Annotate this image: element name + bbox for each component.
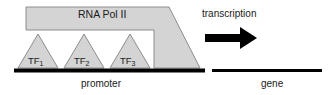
- gene-label: gene: [261, 79, 283, 89]
- transcription-label: transcription: [202, 9, 256, 19]
- transcription-diagram: RNA Pol II transcription promoter gene T…: [0, 0, 332, 95]
- rna-polymerase-ii-label: RNA Pol II: [78, 9, 126, 20]
- gene-dna-line: [212, 69, 322, 72]
- tf2-text: TF: [74, 55, 86, 66]
- tf1-subscript: 1: [40, 60, 44, 67]
- tf3-subscript: 3: [132, 60, 136, 67]
- transcription-arrow-shaft: [205, 34, 241, 42]
- tf3-text: TF: [120, 55, 132, 66]
- transcription-arrow-head: [240, 27, 257, 49]
- transcription-factor-3-label: TF3: [120, 55, 136, 66]
- promoter-dna-line: [14, 69, 205, 73]
- transcription-factor-2-label: TF2: [74, 55, 90, 66]
- tf2-subscript: 2: [86, 60, 90, 67]
- tf1-text: TF: [28, 55, 40, 66]
- transcription-arrow: [205, 27, 257, 49]
- transcription-factor-1-label: TF1: [28, 55, 44, 66]
- promoter-label: promoter: [81, 79, 121, 89]
